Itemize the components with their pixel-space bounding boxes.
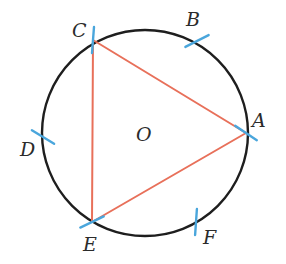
point-label-e: E (82, 233, 97, 255)
point-label-c: C (72, 19, 87, 41)
point-label-f: F (202, 226, 217, 248)
geometry-diagram: ABCDEF O (0, 0, 286, 264)
point-label-a: A (250, 109, 266, 131)
arc-mark-f (195, 209, 197, 235)
center-label-o: O (136, 123, 152, 145)
point-label-b: B (185, 8, 200, 30)
point-label-d: D (19, 138, 35, 160)
